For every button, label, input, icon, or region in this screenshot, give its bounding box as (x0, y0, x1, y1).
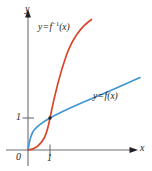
intersection-point-marker (48, 116, 51, 119)
x-tick-label-1: 1 (47, 153, 52, 163)
x-axis (6, 147, 138, 153)
x-axis-arrowhead (130, 147, 139, 153)
plot-canvas (0, 0, 152, 171)
curve-label-forward-eq: = (97, 91, 104, 101)
curve-label-inverse: y=f−1(x) (38, 23, 70, 33)
curve-forward-fx (28, 78, 140, 150)
curve-inverse-finv (28, 20, 92, 151)
curve-label-inverse-arg: (x) (59, 22, 70, 32)
curve-label-forward: y=f(x) (93, 92, 118, 102)
curve-label-forward-arg: (x) (107, 91, 118, 101)
curve-label-inverse-eq: = (42, 22, 49, 32)
x-axis-label: x (140, 143, 144, 153)
y-axis-label: y (25, 4, 29, 14)
inverse-function-figure: y x 1 1 0 y=f−1(x) y=f(x) (0, 0, 152, 171)
y-tick-label-1: 1 (16, 112, 21, 122)
origin-label: 0 (16, 152, 21, 162)
